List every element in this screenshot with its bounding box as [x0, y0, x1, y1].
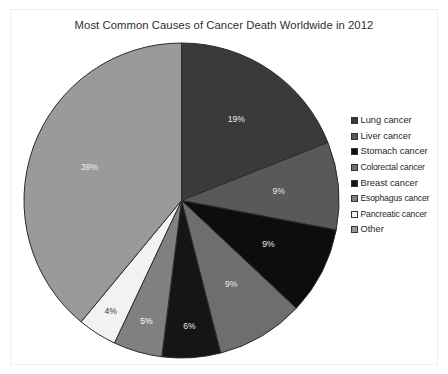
legend-swatch-breast	[351, 180, 358, 187]
pie-slice-group	[24, 43, 339, 358]
pie-slice-label: 9%	[273, 186, 286, 196]
legend-swatch-pancreatic	[351, 211, 358, 218]
pie-slice-label: 6%	[183, 321, 196, 331]
pie-slice-label: 19%	[228, 114, 246, 124]
legend-item[interactable]: Other	[351, 222, 445, 238]
legend-swatch-other	[351, 226, 358, 233]
legend-item[interactable]: Liver cancer	[351, 129, 445, 145]
legend-item-label: Lung cancer	[361, 116, 412, 125]
legend-item[interactable]: Lung cancer	[351, 113, 445, 129]
pie-slice-label: 4%	[104, 306, 117, 316]
pie-slice-label: 5%	[140, 316, 153, 326]
legend-swatch-lung	[351, 117, 358, 124]
legend-item[interactable]: Pancreatic cancer	[351, 207, 445, 223]
pie-slice-label: 9%	[262, 239, 275, 249]
pie-slice-label: 9%	[225, 279, 238, 289]
legend-item-label: Stomach cancer	[361, 147, 428, 156]
legend-swatch-stomach	[351, 148, 358, 155]
chart-container: Most Common Causes of Cancer Death World…	[0, 0, 448, 374]
legend-item-label: Pancreatic cancer	[361, 210, 427, 219]
legend-item[interactable]: Breast cancer	[351, 175, 445, 191]
legend-swatch-colorectal	[351, 164, 358, 171]
pie-slice-label: 39%	[81, 162, 99, 172]
legend-item-label: Colorectal cancer	[361, 163, 425, 172]
chart-legend: Lung cancerLiver cancerStomach cancerCol…	[351, 113, 445, 238]
legend-item-label: Other	[361, 225, 384, 234]
legend-item[interactable]: Colorectal cancer	[351, 160, 445, 176]
legend-item[interactable]: Esophagus cancer	[351, 191, 445, 207]
legend-swatch-esophagus	[351, 195, 358, 202]
legend-item[interactable]: Stomach cancer	[351, 144, 445, 160]
legend-swatch-liver	[351, 133, 358, 140]
legend-item-label: Liver cancer	[361, 132, 412, 141]
legend-item-label: Breast cancer	[361, 179, 418, 188]
legend-item-label: Esophagus cancer	[361, 194, 430, 203]
